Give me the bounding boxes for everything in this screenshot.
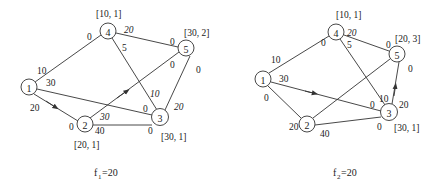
- node-3: 3: [381, 104, 398, 121]
- edge-1-3-flow: 0: [143, 104, 148, 114]
- node-4: 4: [100, 23, 116, 39]
- node-3-label: 3: [158, 113, 163, 124]
- edge-2-5-arrow: [117, 91, 127, 98]
- graph-f2: 1 2 3 4 5 [10, 1] [20, 3] [30, 1] 10 0 3…: [255, 10, 420, 181]
- edge-3-5: [392, 62, 399, 104]
- node-1-label: 1: [27, 83, 32, 94]
- node-5-label: 5: [184, 44, 189, 55]
- edge-4-5-capacity: 20: [124, 25, 134, 35]
- node-4-tag: [10, 1]: [96, 9, 121, 19]
- edge-1-4-flow: 0: [87, 32, 92, 42]
- edge-1-3-flow: 0: [370, 100, 375, 110]
- node-2-tag: [20, 1]: [74, 140, 99, 150]
- caption-f2-value: =20: [341, 167, 357, 178]
- edge-1-3: [271, 82, 381, 111]
- node-4-label: 4: [106, 27, 111, 38]
- node-5-label: 5: [395, 50, 400, 61]
- node-3: 3: [152, 109, 169, 126]
- node-5: 5: [389, 46, 405, 62]
- node-1-label: 1: [261, 75, 266, 86]
- edge-2-3-capacity: 40: [320, 129, 330, 139]
- edge-2-3-capacity: 40: [95, 126, 105, 136]
- edge-1-3-capacity: 30: [279, 74, 289, 84]
- edge-4-3: [112, 38, 157, 110]
- edge-2-5-capacity: 30: [99, 112, 110, 122]
- caption-f1-value: =20: [102, 167, 118, 178]
- caption-f2: f 2 =20: [333, 167, 357, 181]
- edge-3-5-capacity: 20: [174, 102, 184, 112]
- node-4: 4: [328, 24, 344, 40]
- edge-3-5-flow: 0: [196, 65, 201, 75]
- node-5-tag: [30, 2]: [184, 28, 209, 38]
- node-3-label: 3: [387, 108, 392, 119]
- node-4-label: 4: [334, 28, 339, 39]
- edge-2-3: [315, 117, 381, 125]
- edge-2-3-flow: 0: [148, 126, 153, 136]
- edge-1-4-flow: 0: [321, 38, 326, 48]
- edge-1-2-flow: 0: [69, 122, 74, 132]
- node-3-tag: [30, 1]: [394, 123, 419, 133]
- edge-1-4-capacity: 10: [271, 55, 281, 65]
- node-5: 5: [178, 40, 194, 56]
- node-5-tag: [20, 3]: [395, 34, 420, 44]
- edge-1-3-capacity: 30: [46, 78, 56, 88]
- edge-4-5-flow: 0: [386, 40, 391, 50]
- edge-4-3-capacity: 5: [122, 43, 127, 53]
- edge-3-5-flow: 0: [408, 64, 413, 74]
- edge-4-3-capacity: 5: [347, 40, 352, 50]
- node-2-label: 2: [305, 120, 310, 131]
- edge-2-3-flow: 0: [377, 122, 382, 132]
- node-1: 1: [255, 71, 271, 87]
- diagram-canvas: 1 2 3 4 5 [10, 1] [30, 2] [20, 1] [30, 1…: [0, 0, 441, 190]
- node-4-tag: [10, 1]: [336, 10, 361, 20]
- node-3-tag: [30, 1]: [161, 132, 186, 142]
- caption-f1: f 1 =20: [94, 167, 118, 181]
- edge-1-4-capacity: 10: [37, 66, 47, 76]
- edge-1-3: [37, 89, 152, 115]
- node-1: 1: [21, 79, 37, 95]
- edge-3-5-capacity: 20: [399, 100, 409, 110]
- edge-1-2-capacity: 20: [289, 122, 299, 132]
- edge-1-2-arrow: [46, 101, 56, 108]
- node-2: 2: [299, 116, 315, 132]
- edge-1-3-arrow: [305, 91, 315, 94]
- edge-1-2: [268, 86, 301, 118]
- edge-2-5-flow: 0: [170, 60, 175, 70]
- edge-4-5-flow: 0: [170, 37, 175, 47]
- edge-2-5: [313, 59, 390, 118]
- edge-1-2-capacity: 20: [30, 103, 40, 113]
- edge-4-3-flow: 10: [150, 89, 160, 99]
- node-2-label: 2: [83, 120, 88, 131]
- edge-1-2-flow: 0: [264, 93, 269, 103]
- edge-4-3-flow: 10: [379, 94, 389, 104]
- edge-4-5-capacity: 20: [347, 28, 357, 38]
- node-2: 2: [77, 116, 93, 132]
- graph-f1: 1 2 3 4 5 [10, 1] [30, 2] [20, 1] [30, 1…: [21, 9, 209, 181]
